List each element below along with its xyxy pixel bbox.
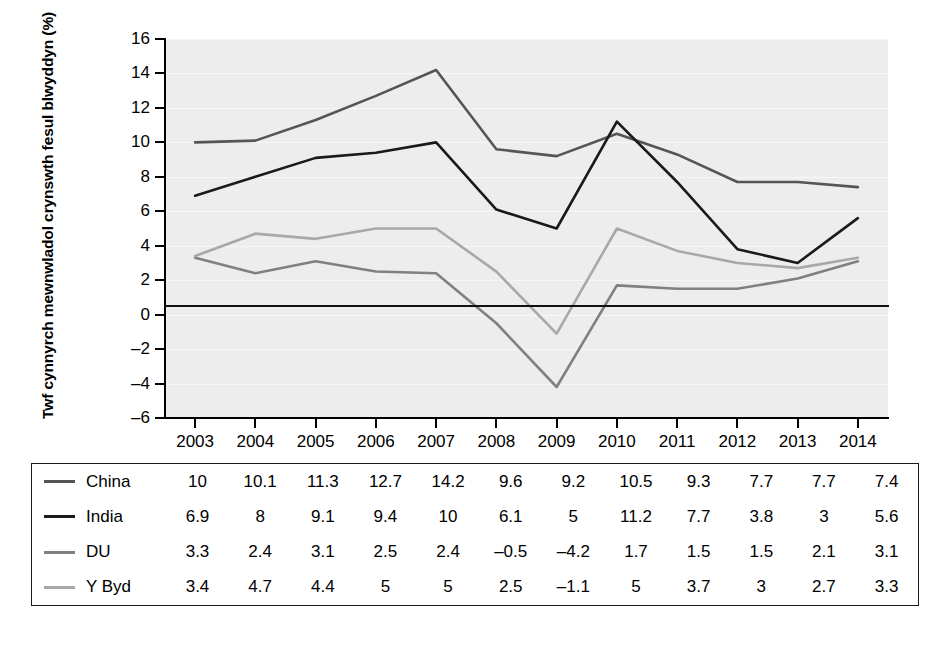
table-cell-value: –0.5 xyxy=(479,535,542,570)
table-cell-value: 7.4 xyxy=(855,464,918,499)
x-axis-tick xyxy=(375,419,377,428)
x-axis-tick xyxy=(736,419,738,428)
x-axis-tick xyxy=(254,419,256,428)
table-cell-value: 1.5 xyxy=(667,535,730,570)
y-axis-tick-label: 10 xyxy=(92,132,150,152)
legend-cell: China xyxy=(32,464,166,499)
table-cell-value: 8 xyxy=(229,499,292,534)
x-axis-tick xyxy=(676,419,678,428)
table-row: China1010.111.312.714.29.69.210.59.37.77… xyxy=(32,464,918,499)
table-cell-value: 7.7 xyxy=(730,464,793,499)
series-lines xyxy=(165,39,888,418)
chart-figure: Twf cynnyrch mewnwladol crynswth fesul b… xyxy=(0,0,950,646)
table-cell-value: 9.4 xyxy=(354,499,417,534)
y-axis-title: Twf cynnyrch mewnwladol crynswth fesul b… xyxy=(38,31,58,419)
data-table-legend: China1010.111.312.714.29.69.210.59.37.77… xyxy=(31,463,919,606)
table-cell-value: 3.8 xyxy=(730,499,793,534)
x-axis-tick xyxy=(797,419,799,428)
table-cell-value: 12.7 xyxy=(354,464,417,499)
table-cell-value: 4.7 xyxy=(229,570,292,605)
table-cell-value: 10.1 xyxy=(229,464,292,499)
table-cell-value: 5.6 xyxy=(855,499,918,534)
series-line-du xyxy=(195,258,858,387)
table-cell-value: 3.4 xyxy=(166,570,229,605)
table-cell-value: 14.2 xyxy=(417,464,480,499)
x-axis-tick-label: 2014 xyxy=(823,432,893,452)
zero-reference-line xyxy=(164,305,889,307)
y-axis-tick-label: –4 xyxy=(92,374,150,394)
table-cell-value: 2.4 xyxy=(229,535,292,570)
legend-line-swatch-icon xyxy=(44,515,75,518)
y-axis-tick xyxy=(155,417,164,419)
y-axis-tick xyxy=(155,348,164,350)
legend-entry: DU xyxy=(44,542,166,562)
table-cell-value: 2.5 xyxy=(354,535,417,570)
y-axis-line xyxy=(164,38,166,419)
table-cell-value: 5 xyxy=(605,570,668,605)
table-cell-value: 7.7 xyxy=(793,464,856,499)
table-cell-value: 3.3 xyxy=(855,570,918,605)
y-axis-tick-label: 14 xyxy=(92,63,150,83)
y-axis-tick-label: 6 xyxy=(92,201,150,221)
table-cell-value: 1.7 xyxy=(605,535,668,570)
table-cell-value: 6.1 xyxy=(479,499,542,534)
series-line-y-byd xyxy=(195,229,858,334)
series-line-india xyxy=(195,122,858,263)
y-axis-tick-label: 0 xyxy=(92,305,150,325)
table-cell-value: 11.3 xyxy=(291,464,354,499)
table-cell-value: 10 xyxy=(166,464,229,499)
y-axis-tick xyxy=(155,38,164,40)
table-cell-value: 3.1 xyxy=(855,535,918,570)
table-cell-value: 2.1 xyxy=(793,535,856,570)
x-axis-tick xyxy=(315,419,317,428)
table-cell-value: 5 xyxy=(354,570,417,605)
table-cell-value: 3.7 xyxy=(667,570,730,605)
table-cell-value: 9.6 xyxy=(479,464,542,499)
x-axis-tick xyxy=(194,419,196,428)
y-axis-tick-label: 8 xyxy=(92,167,150,187)
table-cell-value: 5 xyxy=(417,570,480,605)
table-cell-value: 10.5 xyxy=(605,464,668,499)
legend-series-name: DU xyxy=(86,542,111,562)
y-axis-tick xyxy=(155,383,164,385)
table-row: Y Byd3.44.74.4552.5–1.153.732.73.3 xyxy=(32,570,918,605)
table-cell-value: 1.5 xyxy=(730,535,793,570)
series-line-china xyxy=(195,70,858,187)
y-axis-tick-label: 2 xyxy=(92,270,150,290)
table-cell-value: 4.4 xyxy=(291,570,354,605)
y-axis-tick xyxy=(155,176,164,178)
table-row: India6.989.19.4106.1511.27.73.835.6 xyxy=(32,499,918,534)
x-axis-tick xyxy=(495,419,497,428)
table-cell-value: 3 xyxy=(793,499,856,534)
legend-cell: India xyxy=(32,499,166,534)
table-row: DU3.32.43.12.52.4–0.5–4.21.71.51.52.13.1 xyxy=(32,535,918,570)
table-cell-value: 3.1 xyxy=(291,535,354,570)
legend-cell: DU xyxy=(32,535,166,570)
y-axis-tick xyxy=(155,107,164,109)
legend-cell: Y Byd xyxy=(32,570,166,605)
y-axis-tick xyxy=(155,279,164,281)
table-cell-value: 2.7 xyxy=(793,570,856,605)
x-axis-tick xyxy=(556,419,558,428)
x-axis-tick xyxy=(857,419,859,428)
table-cell-value: 3.3 xyxy=(166,535,229,570)
table-cell-value: 9.1 xyxy=(291,499,354,534)
table-cell-value: 11.2 xyxy=(605,499,668,534)
plot-area xyxy=(165,39,888,418)
y-axis-title-container: Twf cynnyrch mewnwladol crynswth fesul b… xyxy=(26,30,70,420)
y-axis-tick xyxy=(155,72,164,74)
table-cell-value: –1.1 xyxy=(542,570,605,605)
y-axis-tick-label: 12 xyxy=(92,98,150,118)
y-axis-tick-label: –2 xyxy=(92,339,150,359)
y-axis-tick xyxy=(155,141,164,143)
table-cell-value: –4.2 xyxy=(542,535,605,570)
table-cell-value: 2.5 xyxy=(479,570,542,605)
table-cell-value: 9.3 xyxy=(667,464,730,499)
table-cell-value: 3 xyxy=(730,570,793,605)
table-cell-value: 2.4 xyxy=(417,535,480,570)
legend-line-swatch-icon xyxy=(44,480,75,483)
x-axis-tick xyxy=(435,419,437,428)
table-cell-value: 7.7 xyxy=(667,499,730,534)
y-axis-tick xyxy=(155,314,164,316)
legend-series-name: India xyxy=(86,507,123,527)
